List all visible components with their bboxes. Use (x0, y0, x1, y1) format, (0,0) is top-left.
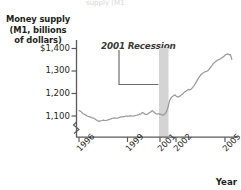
chart-canvas (0, 0, 241, 190)
money-supply-line (79, 54, 232, 122)
recession-leader-line (119, 50, 159, 85)
money-supply-chart: supply (M1 Money supply (M1, billions of… (0, 0, 241, 190)
x-axis-title: Year (216, 177, 237, 187)
recession-shaded-band (159, 48, 169, 137)
